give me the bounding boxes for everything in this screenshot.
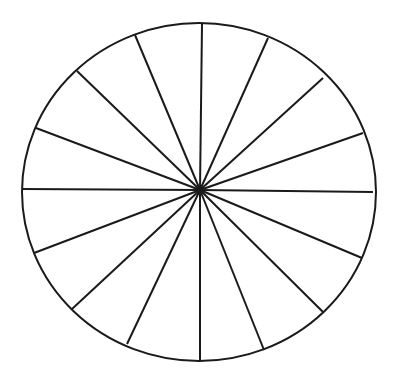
spoke-1 (200, 24, 202, 190)
spokes-group (22, 24, 373, 361)
spoke-14 (36, 128, 200, 190)
spoke-2 (200, 38, 268, 190)
circle-diagram-svg (0, 0, 397, 368)
spoke-15 (77, 71, 200, 190)
spoke-16 (135, 35, 200, 190)
spoke-13 (22, 189, 200, 190)
center-hub (197, 187, 203, 193)
sector-diagram (0, 0, 397, 368)
spoke-3 (200, 78, 323, 190)
spoke-5 (200, 190, 373, 192)
spoke-7 (200, 190, 323, 312)
spoke-11 (72, 190, 200, 309)
spoke-6 (200, 190, 362, 258)
spoke-4 (200, 133, 363, 190)
spoke-8 (200, 190, 264, 350)
